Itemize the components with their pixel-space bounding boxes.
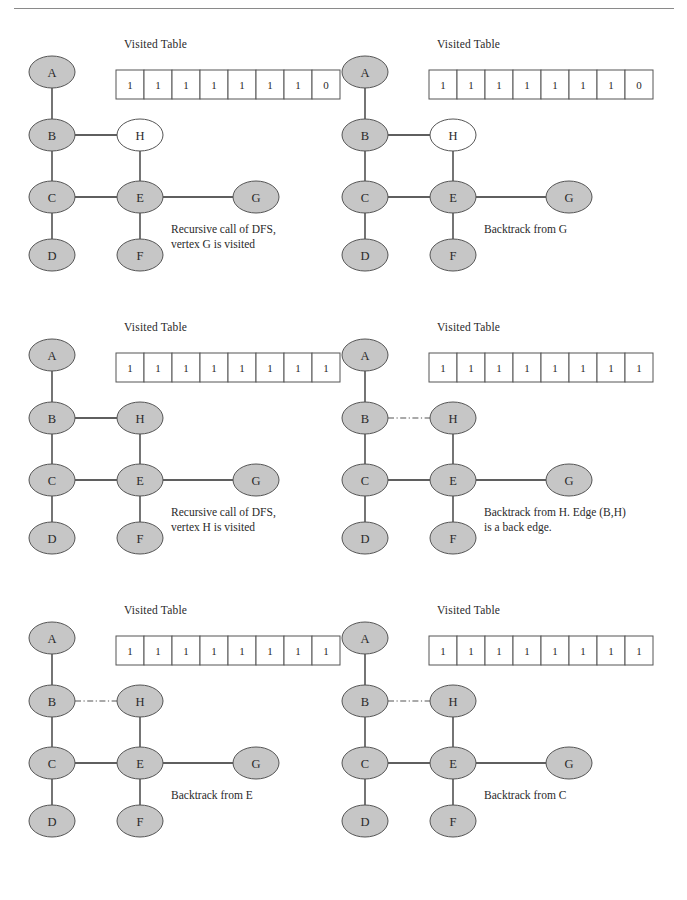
- node-label: F: [450, 249, 457, 263]
- node-label: G: [564, 474, 573, 488]
- graph-node[interactable]: D: [342, 805, 388, 837]
- graph-node[interactable]: A: [342, 339, 388, 371]
- visited-table-cell-value: 1: [496, 645, 502, 657]
- graph-node[interactable]: F: [117, 805, 163, 837]
- graph-node[interactable]: C: [342, 747, 388, 779]
- edges-group: [52, 654, 233, 805]
- visited-table-cell-value: 1: [295, 79, 301, 91]
- visited-table: 11111110: [116, 70, 340, 99]
- visited-table-cell-value: 1: [524, 79, 530, 91]
- node-label: C: [48, 191, 56, 205]
- node-label: G: [564, 191, 573, 205]
- visited-table-cell-value: 1: [267, 645, 273, 657]
- graph-node[interactable]: F: [117, 239, 163, 271]
- graph-node[interactable]: H: [117, 402, 163, 434]
- visited-table-cell-value: 1: [496, 362, 502, 374]
- visited-table: 11111110: [429, 70, 653, 99]
- graph-node[interactable]: A: [342, 56, 388, 88]
- graph-diagram: ABCDEFGH11111110: [14, 30, 344, 300]
- visited-table: 11111111: [429, 636, 653, 665]
- visited-table-cell-value: 1: [155, 362, 161, 374]
- graph-node[interactable]: B: [342, 402, 388, 434]
- node-label: D: [47, 249, 56, 263]
- dfs-step-panel: ABCDEFGH11111111Visited TableBacktrack f…: [14, 596, 344, 866]
- graph-node[interactable]: D: [342, 522, 388, 554]
- graph-node[interactable]: D: [342, 239, 388, 271]
- graph-node[interactable]: D: [29, 239, 75, 271]
- visited-table-cell-value: 1: [183, 362, 189, 374]
- visited-table-cell-value: 1: [183, 645, 189, 657]
- graph-node[interactable]: H: [430, 402, 476, 434]
- graph-node[interactable]: E: [430, 464, 476, 496]
- graph-node[interactable]: A: [29, 56, 75, 88]
- node-label: B: [48, 412, 56, 426]
- node-label: G: [251, 191, 260, 205]
- graph-node[interactable]: C: [29, 464, 75, 496]
- node-label: A: [47, 66, 56, 80]
- node-label: F: [137, 249, 144, 263]
- graph-node[interactable]: E: [117, 747, 163, 779]
- edges-group: [52, 88, 233, 239]
- graph-node[interactable]: H: [430, 119, 476, 151]
- panel-caption: Backtrack from E: [171, 788, 253, 803]
- graph-node[interactable]: F: [430, 522, 476, 554]
- graph-node[interactable]: D: [29, 522, 75, 554]
- graph-node[interactable]: D: [29, 805, 75, 837]
- graph-node[interactable]: H: [430, 685, 476, 717]
- graph-node[interactable]: C: [342, 181, 388, 213]
- graph-node[interactable]: C: [342, 464, 388, 496]
- node-label: H: [135, 129, 144, 143]
- node-label: B: [48, 129, 56, 143]
- graph-diagram: ABCDEFGH11111110: [327, 30, 657, 300]
- graph-node[interactable]: C: [29, 181, 75, 213]
- visited-table-cell-value: 0: [636, 79, 642, 91]
- graph-node[interactable]: G: [233, 464, 279, 496]
- node-label: H: [448, 695, 457, 709]
- visited-table-cell-value: 1: [295, 645, 301, 657]
- graph-node[interactable]: A: [29, 339, 75, 371]
- graph-node[interactable]: A: [29, 622, 75, 654]
- visited-table-cell-value: 1: [608, 79, 614, 91]
- graph-node[interactable]: B: [29, 402, 75, 434]
- visited-table-cell-value: 1: [608, 362, 614, 374]
- graph-node[interactable]: B: [342, 685, 388, 717]
- graph-node[interactable]: A: [342, 622, 388, 654]
- node-label: A: [360, 632, 369, 646]
- node-label: C: [361, 474, 369, 488]
- graph-node[interactable]: E: [430, 747, 476, 779]
- dfs-step-panel: ABCDEFGH11111111Visited TableBacktrack f…: [327, 313, 657, 583]
- node-label: F: [137, 532, 144, 546]
- node-label: A: [360, 66, 369, 80]
- graph-node[interactable]: G: [546, 464, 592, 496]
- graph-diagram: ABCDEFGH11111111: [14, 596, 344, 866]
- graph-node[interactable]: F: [430, 239, 476, 271]
- visited-table: 11111111: [429, 353, 653, 382]
- graph-node[interactable]: F: [117, 522, 163, 554]
- visited-table-cell-value: 1: [267, 79, 273, 91]
- graph-node[interactable]: H: [117, 119, 163, 151]
- visited-table-cell-value: 1: [239, 79, 245, 91]
- graph-node[interactable]: G: [233, 181, 279, 213]
- graph-node[interactable]: H: [117, 685, 163, 717]
- graph-node[interactable]: B: [342, 119, 388, 151]
- graph-node[interactable]: G: [233, 747, 279, 779]
- graph-node[interactable]: B: [29, 119, 75, 151]
- graph-node[interactable]: G: [546, 747, 592, 779]
- graph-node[interactable]: E: [117, 181, 163, 213]
- edges-group: [365, 88, 546, 239]
- visited-table-cell-value: 1: [552, 645, 558, 657]
- visited-table-cell-value: 1: [636, 362, 642, 374]
- graph-node[interactable]: C: [29, 747, 75, 779]
- visited-table-cell-value: 1: [468, 79, 474, 91]
- node-label: E: [136, 757, 144, 771]
- figure-page: ABCDEFGH11111110Visited TableRecursive c…: [0, 0, 687, 900]
- graph-node[interactable]: F: [430, 805, 476, 837]
- graph-node[interactable]: E: [430, 181, 476, 213]
- graph-node[interactable]: G: [546, 181, 592, 213]
- node-label: H: [448, 412, 457, 426]
- visited-table-cell-value: 1: [636, 645, 642, 657]
- graph-node[interactable]: B: [29, 685, 75, 717]
- node-label: A: [47, 349, 56, 363]
- graph-node[interactable]: E: [117, 464, 163, 496]
- node-label: D: [360, 532, 369, 546]
